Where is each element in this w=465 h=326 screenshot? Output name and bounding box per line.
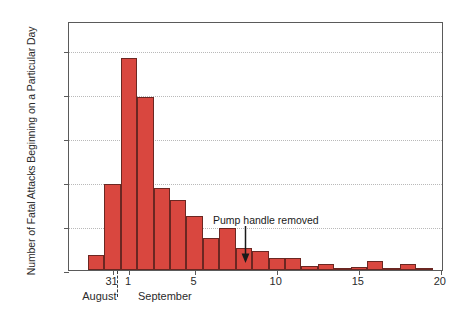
histogram-bar: [203, 238, 219, 270]
histogram-bar: [219, 228, 235, 270]
histogram-bar: [301, 266, 317, 270]
month-label: August: [82, 290, 116, 302]
x-tick-label: 5: [191, 275, 197, 287]
histogram-bar: [269, 258, 285, 270]
histogram-bar: [121, 58, 137, 270]
pump-handle-annotation-label: Pump handle removed: [213, 214, 319, 226]
x-tick-label: 31: [105, 275, 117, 287]
x-tick-label: 15: [352, 275, 364, 287]
down-arrow-icon: [241, 226, 250, 263]
cholera-histogram-chart: Number of Fatal Attacks Beginning on a P…: [0, 0, 465, 326]
month-divider: [117, 271, 118, 297]
histogram-bar: [154, 188, 170, 270]
y-tick-mark: [64, 272, 69, 273]
plot-area: [68, 22, 443, 271]
histogram-bar: [137, 97, 153, 270]
histogram-bar: [334, 268, 350, 270]
month-label: September: [138, 290, 192, 302]
bar-series: [69, 23, 442, 270]
x-tick-label: 20: [434, 275, 446, 287]
histogram-bar: [186, 216, 202, 270]
histogram-bar: [367, 261, 383, 270]
histogram-bar: [400, 264, 416, 270]
x-tick-label: 10: [270, 275, 282, 287]
histogram-bar: [318, 264, 334, 270]
x-tick-label: 1: [125, 275, 131, 287]
histogram-bar: [252, 251, 268, 270]
histogram-bar: [416, 268, 432, 270]
histogram-bar: [170, 200, 186, 270]
y-axis-title: Number of Fatal Attacks Beginning on a P…: [25, 21, 37, 281]
histogram-bar: [88, 255, 104, 270]
histogram-bar: [285, 258, 301, 270]
histogram-bar: [383, 268, 399, 270]
histogram-bar: [104, 184, 120, 270]
